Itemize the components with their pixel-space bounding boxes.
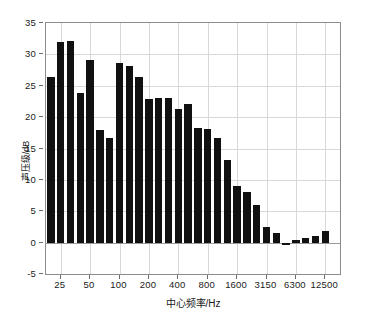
bar xyxy=(204,129,211,243)
x-tick-mark xyxy=(324,275,325,279)
bar xyxy=(194,128,201,243)
y-tick-mark xyxy=(39,210,43,211)
y-tick-mark xyxy=(39,148,43,149)
y-tick-label: 10 xyxy=(25,173,36,184)
x-tick-label: 1600 xyxy=(225,279,247,290)
x-tick-mark xyxy=(295,275,296,279)
y-tick-label: -5 xyxy=(27,268,36,279)
bar xyxy=(165,98,172,243)
bar xyxy=(116,63,123,243)
y-tick-label: 35 xyxy=(25,17,36,28)
y-tick-label: 20 xyxy=(25,111,36,122)
y-tick-mark xyxy=(39,22,43,23)
x-tick-mark xyxy=(89,275,90,279)
bar xyxy=(77,93,84,242)
bar xyxy=(145,99,152,243)
y-tick-mark xyxy=(39,53,43,54)
bar xyxy=(322,231,329,242)
y-axis: 35302520151050-5 xyxy=(0,22,43,275)
x-tick-mark xyxy=(207,275,208,279)
bar xyxy=(253,205,260,243)
y-tick-label: 25 xyxy=(25,79,36,90)
x-tick-label: 12500 xyxy=(311,279,338,290)
y-tick-label: 30 xyxy=(25,48,36,59)
bar xyxy=(282,243,289,245)
x-tick-label: 800 xyxy=(198,279,214,290)
bar xyxy=(86,60,93,243)
bar xyxy=(57,42,64,242)
y-tick-label: 0 xyxy=(31,236,36,247)
bar xyxy=(106,138,113,242)
y-tick-mark xyxy=(39,273,43,274)
bar xyxy=(292,240,299,243)
x-tick-mark xyxy=(119,275,120,279)
x-tick-label: 200 xyxy=(140,279,156,290)
bar xyxy=(224,160,231,243)
bar xyxy=(47,77,54,243)
bar xyxy=(175,109,182,243)
x-tick-mark xyxy=(266,275,267,279)
plot-area xyxy=(45,22,341,275)
x-tick-label: 25 xyxy=(54,279,65,290)
y-tick-mark xyxy=(39,116,43,117)
bar xyxy=(312,236,319,243)
y-tick-mark xyxy=(39,179,43,180)
bar xyxy=(135,77,142,243)
x-tick-mark xyxy=(177,275,178,279)
x-gridline xyxy=(296,23,297,274)
bar xyxy=(184,104,191,243)
x-tick-mark xyxy=(60,275,61,279)
bar xyxy=(273,233,280,242)
zero-baseline xyxy=(46,243,340,244)
y-tick-mark xyxy=(39,85,43,86)
bar xyxy=(233,186,240,243)
y-tick-mark xyxy=(39,242,43,243)
bar xyxy=(263,227,270,243)
chart-figure: 声压级/dB 35302520151050-5 2550100200400800… xyxy=(0,0,380,322)
bar xyxy=(302,238,309,243)
y-tick-label: 15 xyxy=(25,142,36,153)
y-tick-label: 5 xyxy=(31,205,36,216)
x-axis-title: 中心频率/Hz xyxy=(45,295,341,310)
bar xyxy=(126,66,133,243)
bar xyxy=(214,138,221,242)
x-tick-label: 3150 xyxy=(255,279,277,290)
x-tick-mark xyxy=(148,275,149,279)
x-tick-label: 400 xyxy=(169,279,185,290)
bar xyxy=(96,130,103,242)
x-tick-label: 6300 xyxy=(284,279,306,290)
x-tick-label: 100 xyxy=(110,279,126,290)
x-tick-label: 50 xyxy=(84,279,95,290)
bar xyxy=(155,98,162,242)
bar xyxy=(243,192,250,242)
x-axis: 255010020040080016003150630012500 xyxy=(45,275,341,295)
x-tick-mark xyxy=(236,275,237,279)
bar xyxy=(67,41,74,242)
